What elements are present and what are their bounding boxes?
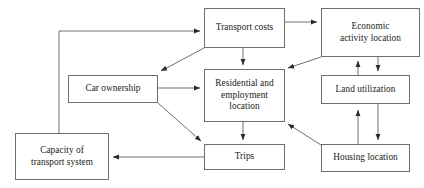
node-label-housing-location: Housing location (331, 152, 400, 163)
edge-car-ownership-to-trips (158, 103, 201, 141)
node-capacity-of-transport-system[interactable]: Capacity of transport system (15, 133, 109, 180)
node-label-capacity-of-transport-system: Capacity of transport system (29, 145, 95, 168)
edge-housing-location-to-residential (288, 124, 321, 145)
node-label-residential-and-employment-location: Residential and employment location (213, 78, 275, 112)
node-trips[interactable]: Trips (204, 144, 285, 170)
node-label-land-utilization: Land utilization (334, 84, 398, 95)
node-car-ownership[interactable]: Car ownership (68, 75, 158, 103)
node-label-economic-activity-location: Economic activity location (338, 21, 403, 44)
edge-economic-activity-to-residential (288, 57, 321, 68)
edge-transport-costs-to-car-ownership (161, 48, 204, 71)
node-label-trips: Trips (233, 151, 257, 162)
node-land-utilization[interactable]: Land utilization (321, 75, 410, 104)
node-housing-location[interactable]: Housing location (321, 144, 410, 172)
node-economic-activity-location[interactable]: Economic activity location (321, 8, 420, 57)
transport-land-use-feedback-diagram: Transport costs Economic activity locati… (0, 0, 424, 188)
node-label-car-ownership: Car ownership (83, 83, 142, 94)
node-label-transport-costs: Transport costs (214, 22, 275, 33)
node-residential-and-employment-location[interactable]: Residential and employment location (204, 69, 285, 122)
node-transport-costs[interactable]: Transport costs (204, 8, 285, 48)
